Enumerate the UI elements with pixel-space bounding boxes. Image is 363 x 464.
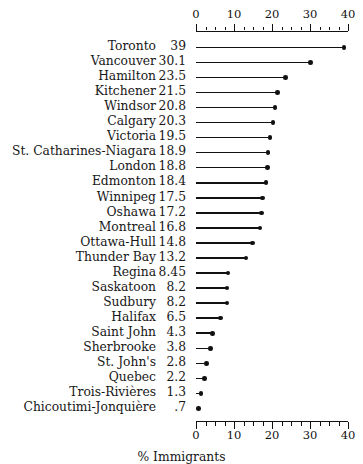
value-label: 8.2 <box>152 295 186 310</box>
category-label: Kitchener <box>95 84 156 99</box>
value-label: 1.3 <box>152 385 186 400</box>
value-line <box>196 137 270 139</box>
data-row: Saint John4.3 <box>0 325 363 340</box>
axis-minor-tick <box>263 27 264 31</box>
value-label: 18.8 <box>152 159 186 174</box>
value-line <box>196 62 310 64</box>
axis-line <box>196 31 348 32</box>
axis-minor-tick <box>206 422 207 426</box>
value-label: 2.8 <box>152 355 186 370</box>
category-label: St. Catharines-Niagara <box>12 144 156 159</box>
value-label: 20.3 <box>152 114 186 129</box>
axis-minor-tick <box>253 27 254 31</box>
value-line <box>196 167 267 169</box>
data-row: Halifax6.5 <box>0 310 363 325</box>
value-dot <box>260 196 265 201</box>
data-row: Winnipeg17.5 <box>0 190 363 205</box>
category-label: Regina <box>112 265 156 280</box>
value-line <box>196 47 344 49</box>
data-row: Hamilton23.5 <box>0 69 363 84</box>
value-label: 3.8 <box>152 340 186 355</box>
value-label: 23.5 <box>152 69 186 84</box>
x-tick-label: 20 <box>252 430 292 442</box>
value-dot <box>266 150 271 155</box>
value-label: 2.2 <box>152 370 186 385</box>
axis-minor-tick <box>329 27 330 31</box>
axis-minor-tick <box>244 27 245 31</box>
axis-minor-tick <box>244 422 245 426</box>
value-line <box>196 152 268 154</box>
value-dot <box>225 286 230 291</box>
value-line <box>196 287 227 289</box>
category-label: Sherbrooke <box>83 340 156 355</box>
value-line <box>196 212 261 214</box>
value-label: 16.8 <box>152 220 186 235</box>
axis-minor-tick <box>206 27 207 31</box>
category-label: Toronto <box>108 39 156 54</box>
data-row: Calgary20.3 <box>0 114 363 129</box>
axis-minor-tick <box>339 422 340 426</box>
axis-minor-tick <box>320 422 321 426</box>
value-label: 21.5 <box>152 84 186 99</box>
value-dot <box>283 75 288 80</box>
value-label: 18.4 <box>152 174 186 189</box>
data-row: Quebec2.2 <box>0 370 363 385</box>
value-line <box>196 272 228 274</box>
value-dot <box>264 180 269 185</box>
value-label: 30.1 <box>152 54 186 69</box>
data-row: Vancouver30.1 <box>0 54 363 69</box>
data-row: Sudbury8.2 <box>0 295 363 310</box>
value-dot <box>259 211 264 216</box>
value-dot <box>250 241 255 246</box>
data-row: Oshawa17.2 <box>0 205 363 220</box>
value-dot <box>202 376 207 381</box>
data-row: Victoria19.5 <box>0 129 363 144</box>
axis-major-tick <box>310 24 311 31</box>
value-label: 39 <box>152 39 186 54</box>
axis-minor-tick <box>282 422 283 426</box>
value-dot <box>271 120 276 125</box>
value-dot <box>244 256 249 261</box>
data-row: St. John's2.8 <box>0 355 363 370</box>
data-row: Ottawa-Hull14.8 <box>0 235 363 250</box>
value-label: 6.5 <box>152 310 186 325</box>
category-label: Thunder Bay <box>76 250 156 265</box>
x-tick-label: 0 <box>176 430 216 442</box>
x-axis-title: % Immigrants <box>0 450 363 464</box>
axis-minor-tick <box>291 422 292 426</box>
value-dot <box>268 135 273 140</box>
value-line <box>196 77 285 79</box>
x-tick-label: 30 <box>290 430 330 442</box>
value-dot <box>273 105 278 110</box>
value-label: 14.8 <box>152 235 186 250</box>
value-dot <box>265 165 270 170</box>
value-line <box>196 242 252 244</box>
value-label: 17.5 <box>152 190 186 205</box>
category-label: Victoria <box>107 129 156 144</box>
axis-minor-tick <box>301 27 302 31</box>
axis-minor-tick <box>225 27 226 31</box>
category-label: London <box>109 159 156 174</box>
x-tick-label: 0 <box>176 9 216 21</box>
value-line <box>196 182 266 184</box>
value-dot <box>204 361 209 366</box>
category-label: Hamilton <box>98 69 156 84</box>
category-label: Windsor <box>104 99 156 114</box>
value-dot <box>308 60 313 65</box>
data-row: Regina8.45 <box>0 265 363 280</box>
axis-minor-tick <box>282 27 283 31</box>
value-line <box>196 107 275 109</box>
axis-minor-tick <box>253 422 254 426</box>
axis-minor-tick <box>263 422 264 426</box>
value-label: 8.2 <box>152 280 186 295</box>
value-line <box>196 317 221 319</box>
x-tick-label: 30 <box>290 9 330 21</box>
value-line <box>196 227 260 229</box>
data-row: London18.8 <box>0 159 363 174</box>
axis-major-tick <box>196 24 197 31</box>
value-line <box>196 197 263 199</box>
axis-minor-tick <box>329 422 330 426</box>
value-line <box>196 122 273 124</box>
x-tick-label: 10 <box>214 430 254 442</box>
axis-major-tick <box>234 24 235 31</box>
